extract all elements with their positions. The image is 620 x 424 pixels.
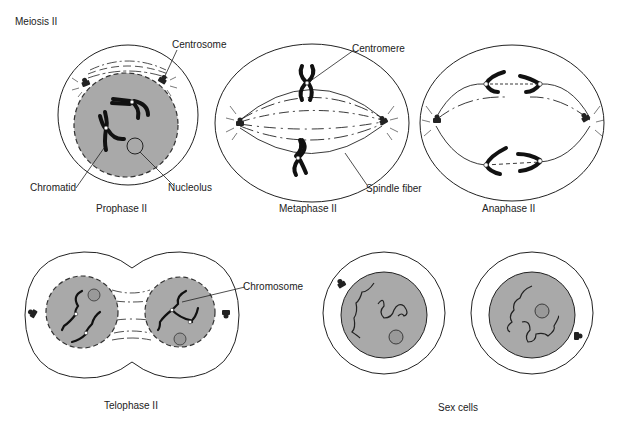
stage-label-sex-cells: Sex cells xyxy=(438,402,478,414)
nucleolus-icon xyxy=(535,304,549,318)
label-spindle-fiber: Spindle fiber xyxy=(366,183,422,195)
label-nucleolus: Nucleolus xyxy=(168,182,212,194)
anaphase-cell xyxy=(420,45,604,201)
stage-label-metaphase: Metaphase II xyxy=(279,203,337,215)
nucleus xyxy=(74,73,178,177)
nucleolus-icon xyxy=(88,289,100,301)
label-centromere: Centromere xyxy=(352,43,405,55)
sex-cell-1 xyxy=(323,252,445,374)
nucleolus-icon xyxy=(127,138,143,154)
page-title: Meiosis II xyxy=(15,16,57,28)
stage-label-telophase: Telophase II xyxy=(104,400,158,412)
prophase-cell xyxy=(58,45,198,188)
stage-label-prophase: Prophase II xyxy=(96,203,147,215)
nucleolus-icon xyxy=(174,333,186,345)
label-chromatid: Chromatid xyxy=(30,182,76,194)
label-chromosome: Chromosome xyxy=(243,281,303,293)
label-centrosome: Centrosome xyxy=(172,39,226,51)
metaphase-cell xyxy=(215,44,409,202)
sex-cell-2 xyxy=(471,252,593,374)
telophase-cell xyxy=(25,252,245,378)
stage-label-anaphase: Anaphase II xyxy=(482,203,535,215)
nucleolus-icon xyxy=(389,330,403,344)
